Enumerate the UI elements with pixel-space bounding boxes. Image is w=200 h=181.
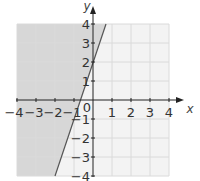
y-axis-label: y bbox=[82, 0, 91, 13]
svg-text:−1: −1 bbox=[71, 112, 90, 127]
svg-text:−3: −3 bbox=[71, 150, 90, 165]
svg-text:4: 4 bbox=[82, 17, 90, 32]
x-axis-label: x bbox=[185, 102, 194, 116]
svg-text:2: 2 bbox=[82, 55, 90, 70]
svg-text:2: 2 bbox=[127, 105, 135, 120]
svg-text:−2: −2 bbox=[43, 105, 62, 120]
svg-text:4: 4 bbox=[165, 105, 173, 120]
svg-text:3: 3 bbox=[146, 105, 154, 120]
x-axis-arrow-icon bbox=[176, 97, 184, 103]
graph: −4 −3 −2 −1 1 2 3 4 0 4 3 2 1 −1 −2 −3 −… bbox=[0, 0, 200, 181]
y-axis-arrow-icon bbox=[90, 6, 96, 14]
svg-text:−4: −4 bbox=[4, 105, 23, 120]
svg-text:−2: −2 bbox=[71, 131, 90, 146]
svg-text:1: 1 bbox=[108, 105, 116, 120]
svg-text:−4: −4 bbox=[71, 169, 90, 181]
svg-text:−3: −3 bbox=[24, 105, 43, 120]
svg-text:1: 1 bbox=[82, 74, 90, 89]
svg-text:3: 3 bbox=[82, 36, 90, 51]
